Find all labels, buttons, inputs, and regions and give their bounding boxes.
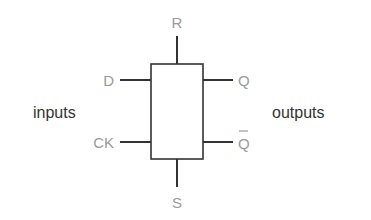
pin-q-label: Q [238, 72, 250, 89]
pin-d-label: D [103, 72, 114, 89]
pin-ck-label: CK [93, 134, 114, 151]
flip-flop-diagram: R S D CK Q Q inputs outputs [0, 0, 371, 220]
pin-qbar-label: Q [238, 135, 250, 152]
pin-s-label: S [172, 194, 182, 211]
inputs-label: inputs [33, 104, 76, 121]
pin-r-label: R [172, 14, 183, 31]
outputs-label: outputs [272, 104, 324, 121]
flip-flop-box [151, 64, 203, 159]
